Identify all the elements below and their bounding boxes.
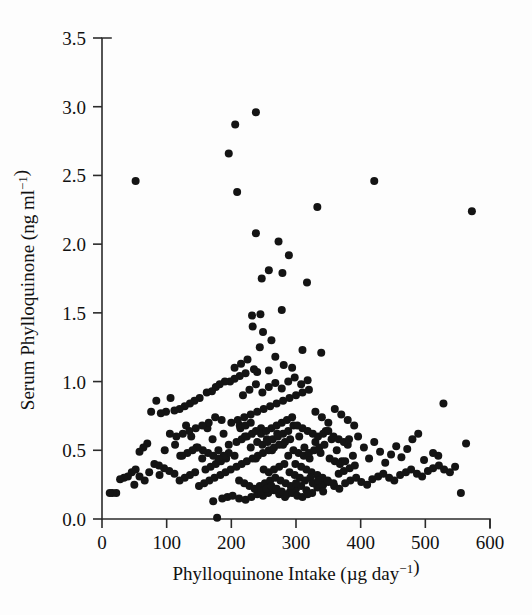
x-tick-label: 0 (97, 532, 107, 553)
data-point (303, 279, 311, 287)
data-point (304, 490, 312, 498)
data-point (462, 439, 470, 447)
x-tick-label: 300 (282, 532, 311, 553)
y-tick-label: 0.0 (62, 509, 86, 530)
data-point (280, 460, 288, 468)
x-tick-label: 400 (346, 532, 375, 553)
data-point (258, 389, 266, 397)
data-point (198, 455, 206, 463)
data-point (408, 435, 416, 443)
data-point (403, 445, 411, 453)
data-point (256, 343, 264, 351)
data-point (313, 203, 321, 211)
data-point (152, 397, 160, 405)
data-point (136, 472, 144, 480)
data-point (304, 376, 312, 384)
y-tick-label: 3.0 (62, 97, 86, 118)
data-point (233, 188, 241, 196)
data-points-group (106, 108, 476, 521)
data-point (245, 386, 253, 394)
data-point (387, 450, 395, 458)
data-point (335, 485, 343, 493)
data-point (278, 306, 286, 314)
data-point (252, 380, 260, 388)
data-point (136, 448, 144, 456)
data-point (370, 438, 378, 446)
data-point (414, 430, 422, 438)
data-point (275, 237, 283, 245)
x-axis-title: Phylloquinone Intake (µg day−1) (173, 556, 420, 585)
data-point (247, 444, 255, 452)
y-tick-label: 1.0 (62, 372, 86, 393)
data-point (331, 405, 339, 413)
data-point (106, 489, 114, 497)
data-point (370, 177, 378, 185)
data-point (178, 452, 186, 460)
data-point (203, 389, 211, 397)
data-point (239, 391, 247, 399)
data-point (244, 356, 252, 364)
data-point (172, 433, 180, 441)
data-point (258, 275, 266, 283)
data-point (132, 177, 140, 185)
data-point (252, 108, 260, 116)
data-point (267, 336, 275, 344)
data-point (280, 361, 288, 369)
data-point (250, 365, 258, 373)
data-point (333, 446, 341, 454)
data-point (247, 419, 255, 427)
data-point (451, 463, 459, 471)
data-point (130, 481, 138, 489)
x-tick-label: 200 (217, 532, 246, 553)
y-axis-title: Serum Phylloquinone (ng ml−1) (10, 170, 39, 410)
data-point (311, 408, 319, 416)
data-point (320, 441, 328, 449)
data-point (392, 442, 400, 450)
y-tick-label: 0.5 (62, 440, 86, 461)
data-point (284, 427, 292, 435)
data-point (249, 323, 257, 331)
data-point (468, 207, 476, 215)
y-tick-label: 3.5 (62, 28, 86, 49)
data-point (344, 416, 352, 424)
data-point (418, 472, 426, 480)
x-tick-label: 100 (152, 532, 181, 553)
data-point (170, 406, 178, 414)
scatter-plot-figure: 0100200300400500600 0.00.51.01.52.02.53.… (0, 0, 532, 615)
data-point (319, 488, 327, 496)
data-point (381, 459, 389, 467)
data-point (171, 441, 179, 449)
chart-canvas: 0100200300400500600 0.00.51.01.52.02.53.… (0, 0, 532, 615)
data-point (288, 364, 296, 372)
data-point (265, 266, 273, 274)
data-point (349, 452, 357, 460)
data-point (161, 446, 169, 454)
data-point (317, 349, 325, 357)
data-point (360, 444, 368, 452)
data-point (220, 430, 228, 438)
data-point (291, 373, 299, 381)
data-point (324, 419, 332, 427)
data-point (330, 479, 338, 487)
data-point (420, 456, 428, 464)
data-point (278, 269, 286, 277)
data-point (271, 353, 279, 361)
data-point (209, 435, 217, 443)
data-point (252, 229, 260, 237)
data-point (145, 468, 153, 476)
data-point (397, 453, 405, 461)
data-point (256, 310, 264, 318)
data-point (167, 394, 175, 402)
data-point (439, 400, 447, 408)
data-point (351, 461, 359, 469)
data-point (265, 367, 273, 375)
data-point (271, 379, 279, 387)
data-point (429, 449, 437, 457)
data-point (209, 497, 217, 505)
data-point (365, 455, 373, 463)
y-tick-labels-group: 0.00.51.01.52.02.53.03.5 (62, 28, 86, 530)
data-point (259, 328, 267, 336)
data-point (225, 441, 233, 449)
data-point (390, 477, 398, 485)
data-point (278, 384, 286, 392)
